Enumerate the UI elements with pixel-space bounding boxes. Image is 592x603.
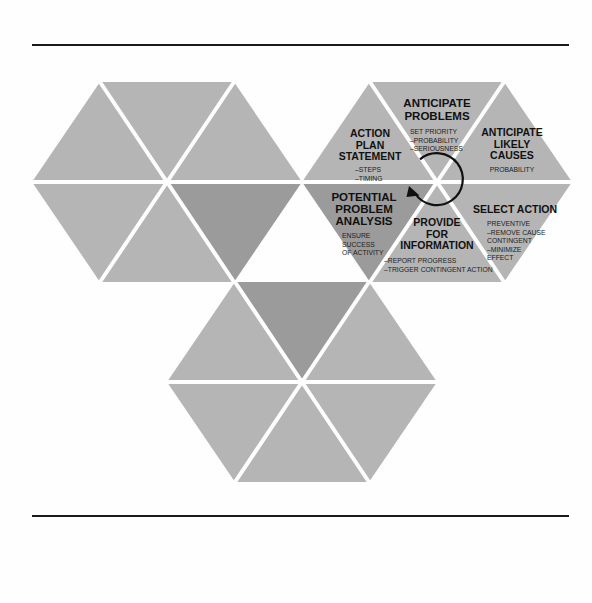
anticipate-likely-causes-heading-line2: LIKELY — [494, 138, 530, 150]
anticipate-likely-causes-sub-line1: PROBABILITY — [490, 166, 535, 173]
anticipate-problems-sub-line1: SET PRIORITY — [410, 128, 458, 135]
provide-for-information-sub-line1: –REPORT PROGRESS — [384, 257, 457, 264]
provide-for-information-heading-line2: FOR — [426, 228, 449, 240]
select-action-sub-line2: –REMOVE CAUSE — [487, 229, 546, 236]
potential-problem-analysis-sub-line1: ENSURE — [342, 232, 371, 239]
anticipate-problems-sub-line3: –SERIOUSNESS — [410, 145, 463, 152]
provide-for-information-heading-line1: PROVIDE — [413, 216, 460, 228]
select-action-sub-line1: PREVENTIVE — [487, 220, 531, 227]
anticipate-problems-sub-line2: –PROBABILITY — [410, 137, 459, 144]
hexagon-wheel-diagram: ANTICIPATE PROBLEMS SET PRIORITY –PROBAB… — [0, 0, 592, 603]
provide-for-information-heading-line3: INFORMATION — [400, 239, 473, 251]
anticipate-problems-heading-line2: PROBLEMS — [404, 110, 470, 122]
select-action-sub-line5: EFFECT — [487, 254, 513, 261]
potential-problem-analysis-heading-line3: ANALYSIS — [335, 215, 392, 227]
select-action-heading-line1: SELECT ACTION — [473, 203, 557, 215]
action-plan-statement-sub-line1: –STEPS — [355, 166, 382, 173]
action-plan-statement-heading-line2: PLAN — [356, 139, 385, 151]
potential-problem-analysis-sub-line2: SUCCESS — [342, 241, 375, 248]
select-action-sub-line3: CONTINGENT — [487, 237, 532, 244]
potential-problem-analysis-heading-line2: PROBLEM — [335, 203, 393, 215]
potential-problem-analysis-sub-line3: OF ACTIVITY — [342, 249, 384, 256]
anticipate-problems-heading-line1: ANTICIPATE — [403, 97, 471, 109]
provide-for-information-sub-line2: –TRIGGER CONTINGENT ACTION — [384, 266, 493, 273]
bottom-hexagon — [167, 282, 437, 482]
potential-problem-analysis-heading-line1: POTENTIAL — [331, 191, 396, 203]
action-plan-statement-heading-line1: ACTION — [350, 127, 390, 139]
action-plan-statement-sub-line2: –TIMING — [355, 175, 383, 182]
anticipate-likely-causes-heading-line1: ANTICIPATE — [481, 126, 542, 138]
left-hexagon — [32, 82, 302, 282]
action-plan-statement-heading-line3: STATEMENT — [339, 150, 402, 162]
select-action-sub-line4: –MINIMIZE — [487, 246, 522, 253]
segment-anticipate-likely-causes-label: ANTICIPATE LIKELY CAUSES PROBABILITY — [481, 126, 542, 173]
diagram-page: ANTICIPATE PROBLEMS SET PRIORITY –PROBAB… — [0, 0, 592, 603]
anticipate-likely-causes-heading-line3: CAUSES — [490, 149, 534, 161]
